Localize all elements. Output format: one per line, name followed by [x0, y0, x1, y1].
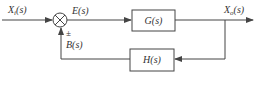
input-signal-label: Xi(s)	[7, 4, 27, 17]
error-signal-label: E(s)	[71, 5, 89, 17]
feedback-return-line	[175, 20, 225, 59]
feedback-signal-label: B(s)	[66, 39, 83, 51]
output-signal-label: Xo(s)	[223, 4, 245, 17]
block-diagram: Xi(s) ± E(s) G(s) Xo(s) H(s) B(s)	[0, 0, 257, 85]
sign-label: ±	[66, 28, 71, 38]
summing-junction	[53, 13, 67, 27]
feedback-block-label: H(s)	[142, 54, 161, 66]
forward-block-label: G(s)	[145, 15, 163, 27]
